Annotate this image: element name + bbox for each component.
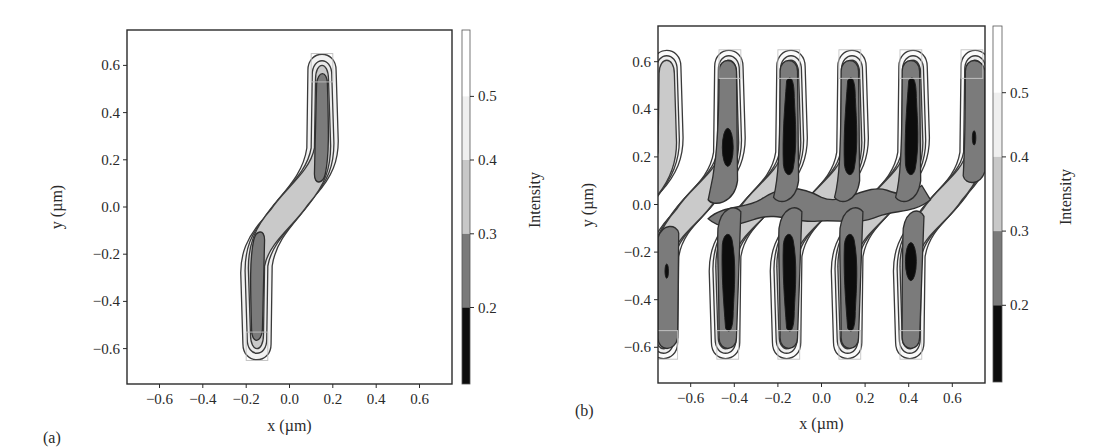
svg-text:0.6: 0.6: [943, 390, 962, 406]
svg-text:−0.6: −0.6: [93, 341, 121, 357]
svg-text:0.6: 0.6: [101, 57, 120, 73]
x-tick: −0.2: [233, 384, 260, 407]
svg-text:0.2: 0.2: [323, 391, 342, 407]
x-tick: −0.4: [721, 383, 749, 406]
cbar-tick: 0.2: [1002, 297, 1029, 313]
svg-text:−0.2: −0.2: [93, 246, 120, 262]
y-tick: 0.4: [101, 105, 127, 121]
panel-b: −0.6 −0.4 −0.2 0.0 0.2 0.4 0.6 0.6 0.4 0…: [556, 0, 1112, 447]
svg-text:0.0: 0.0: [101, 199, 120, 215]
y-axis-b: 0.6 0.4 0.2 0.0 −0.2 −0.4 −0.6: [624, 54, 658, 356]
x-axis-b: −0.6 −0.4 −0.2 0.0 0.2 0.4 0.6: [677, 383, 962, 406]
cbar-tick: 0.3: [1002, 223, 1029, 239]
svg-text:−0.4: −0.4: [721, 390, 749, 406]
svg-text:−0.2: −0.2: [624, 244, 651, 260]
x-axis-label-a: x (µm): [267, 417, 311, 435]
y-axis-label-b: y (µm): [579, 183, 597, 227]
y-tick: 0.2: [101, 152, 127, 168]
colorbar-a: 0.5 0.4 0.3 0.2 Intensity: [462, 30, 544, 384]
y-tick: −0.2: [624, 244, 658, 260]
x-tick: −0.2: [764, 383, 791, 406]
panel-label-b: (b): [575, 402, 594, 420]
svg-text:0.4: 0.4: [899, 390, 918, 406]
svg-text:0.0: 0.0: [280, 391, 299, 407]
y-tick: 0.0: [101, 199, 127, 215]
x-tick: 0.2: [323, 384, 342, 407]
x-axis-label-b: x (µm): [799, 415, 843, 433]
x-tick: −0.6: [677, 383, 705, 406]
y-tick: 0.6: [101, 57, 127, 73]
svg-text:−0.4: −0.4: [189, 391, 217, 407]
y-tick: −0.6: [624, 339, 658, 355]
svg-text:0.0: 0.0: [632, 197, 651, 213]
colorbar-b: 0.5 0.4 0.3 0.2 Intensity: [993, 26, 1075, 382]
y-tick: −0.2: [93, 246, 127, 262]
cbar-tick: 0.3: [470, 226, 497, 242]
svg-text:−0.2: −0.2: [764, 390, 791, 406]
svg-text:0.2: 0.2: [478, 300, 497, 316]
x-axis-a: −0.6 −0.4 −0.2 0.0 0.2 0.4 0.6: [146, 384, 429, 407]
x-tick: 0.0: [280, 384, 299, 407]
y-tick: −0.6: [93, 341, 127, 357]
y-tick: −0.4: [93, 293, 127, 309]
svg-text:0.2: 0.2: [1010, 297, 1029, 313]
y-tick: −0.4: [624, 292, 658, 308]
svg-text:0.6: 0.6: [632, 54, 651, 70]
svg-text:0.4: 0.4: [1010, 149, 1029, 165]
y-tick: 0.2: [632, 149, 658, 165]
y-tick: 0.0: [632, 197, 658, 213]
y-tick: 0.6: [632, 54, 658, 70]
svg-text:0.2: 0.2: [632, 149, 651, 165]
svg-text:0.2: 0.2: [856, 390, 875, 406]
y-axis-a: 0.6 0.4 0.2 0.0 −0.2 −0.4 −0.6: [93, 57, 127, 356]
cbar-tick: 0.2: [470, 300, 497, 316]
cbar-tick: 0.5: [470, 88, 497, 104]
x-tick: −0.4: [189, 384, 217, 407]
svg-text:−0.6: −0.6: [146, 391, 174, 407]
svg-text:0.5: 0.5: [478, 88, 497, 104]
panel-label-a: (a): [43, 429, 61, 447]
svg-text:−0.6: −0.6: [677, 390, 705, 406]
svg-text:0.3: 0.3: [478, 226, 497, 242]
svg-text:0.4: 0.4: [478, 152, 497, 168]
cbar-tick: 0.4: [1002, 149, 1029, 165]
svg-text:0.4: 0.4: [367, 391, 386, 407]
x-tick: 0.4: [899, 383, 918, 406]
svg-text:−0.6: −0.6: [624, 339, 652, 355]
svg-text:0.3: 0.3: [1010, 223, 1029, 239]
colorbar-label-a: Intensity: [526, 172, 544, 228]
svg-text:−0.4: −0.4: [93, 293, 121, 309]
svg-text:−0.4: −0.4: [624, 292, 652, 308]
panel-b-svg: −0.6 −0.4 −0.2 0.0 0.2 0.4 0.6 0.6 0.4 0…: [556, 0, 1112, 447]
y-axis-label-a: y (µm): [48, 185, 66, 229]
x-tick: 0.6: [410, 384, 429, 407]
panel-a: −0.6 −0.4 −0.2 0.0 0.2 0.4 0.6 0.6 0.4 0…: [0, 0, 556, 447]
x-tick: 0.6: [943, 383, 962, 406]
svg-text:0.5: 0.5: [1010, 85, 1029, 101]
svg-text:0.4: 0.4: [101, 105, 120, 121]
x-tick: 0.2: [856, 383, 875, 406]
svg-text:0.6: 0.6: [410, 391, 429, 407]
colorbar-label-b: Intensity: [1057, 169, 1075, 225]
svg-text:−0.2: −0.2: [233, 391, 260, 407]
svg-text:0.2: 0.2: [101, 152, 120, 168]
plot-area-a: [127, 30, 452, 384]
cbar-tick: 0.5: [1002, 85, 1029, 101]
panel-a-svg: −0.6 −0.4 −0.2 0.0 0.2 0.4 0.6 0.6 0.4 0…: [0, 0, 556, 447]
x-tick: 0.4: [367, 384, 386, 407]
svg-text:0.0: 0.0: [812, 390, 831, 406]
x-tick: 0.0: [812, 383, 831, 406]
y-tick: 0.4: [632, 101, 658, 117]
cbar-tick: 0.4: [470, 152, 497, 168]
x-tick: −0.6: [146, 384, 174, 407]
svg-text:0.4: 0.4: [632, 101, 651, 117]
